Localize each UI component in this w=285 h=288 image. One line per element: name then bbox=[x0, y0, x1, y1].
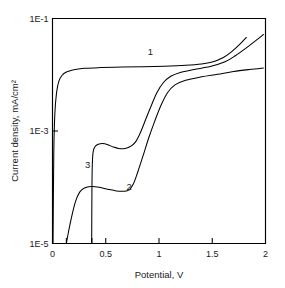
plot-frame-path bbox=[53, 19, 266, 244]
y-axis-title-text: Current density, mA/cm² bbox=[9, 80, 20, 182]
curve-1 bbox=[53, 37, 246, 243]
x-tick-label: 1.5 bbox=[206, 249, 219, 259]
y-tick-label: 1E-1 bbox=[29, 14, 48, 24]
chart-svg: Current density, mA/cm² Potential, V 1E-… bbox=[0, 0, 285, 288]
y-tick-label: 1E-3 bbox=[29, 126, 48, 136]
curve-label-2: 2 bbox=[127, 181, 132, 192]
x-axis-title: Potential, V bbox=[135, 269, 184, 280]
x-tick-label: 2 bbox=[263, 249, 268, 259]
y-tick-labels: 1E-11E-31E-5 bbox=[29, 14, 48, 249]
curve-label-3: 3 bbox=[85, 159, 90, 170]
curve-2 bbox=[66, 68, 263, 244]
chart-figure: Current density, mA/cm² Potential, V 1E-… bbox=[0, 0, 285, 288]
x-tick-label: 0 bbox=[50, 249, 55, 259]
x-tick-label: 1 bbox=[156, 249, 161, 259]
x-tick-labels: 00.511.52 bbox=[50, 249, 268, 259]
plot-frame bbox=[53, 19, 266, 244]
x-axis-title-text: Potential, V bbox=[135, 269, 184, 280]
tick-marks bbox=[53, 19, 266, 244]
y-axis-title: Current density, mA/cm² bbox=[9, 80, 20, 182]
x-tick-label: 0.5 bbox=[99, 249, 112, 259]
curve-label-1: 1 bbox=[148, 46, 153, 57]
data-curves bbox=[53, 34, 263, 243]
y-tick-label: 1E-5 bbox=[29, 239, 48, 249]
